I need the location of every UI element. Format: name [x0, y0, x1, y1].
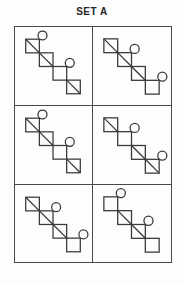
figure-cell-r2c2 — [93, 106, 171, 185]
square-2 — [118, 132, 132, 146]
square-4 — [67, 238, 81, 252]
square-4-diagonal — [145, 159, 159, 173]
chain-figure-r2c1 — [15, 106, 92, 184]
chain-figure-r3c1 — [15, 185, 92, 263]
square-2-diagonal — [39, 53, 53, 67]
square-3-diagonal — [53, 224, 67, 238]
square-4-diagonal — [67, 80, 81, 94]
square-1-diagonal — [26, 197, 40, 211]
attached-circle-square-2 — [130, 123, 139, 132]
attached-circle-square-1 — [116, 189, 125, 198]
square-1-diagonal — [26, 39, 40, 53]
figure-cell-r3c1 — [15, 185, 93, 263]
attached-circle-square-1 — [38, 110, 47, 119]
square-3 — [53, 66, 67, 80]
square-1-diagonal — [26, 118, 40, 132]
square-3-diagonal — [132, 224, 146, 238]
chain-figure-r2c2 — [93, 106, 171, 184]
figure-cell-r1c2 — [93, 27, 171, 106]
attached-circle-square-1 — [38, 31, 47, 40]
figure-cell-r2c1 — [15, 106, 93, 185]
attached-circle-square-3 — [65, 58, 74, 67]
attached-circle-square-4 — [158, 151, 167, 160]
chain-figure-r3c2 — [93, 185, 171, 263]
square-2-diagonal — [39, 132, 53, 146]
square-4 — [145, 80, 159, 94]
square-3-diagonal — [132, 66, 146, 80]
attached-circle-square-4 — [79, 230, 88, 239]
set-title: SET A — [0, 6, 184, 17]
figure-cell-r3c2 — [93, 185, 171, 263]
square-2-diagonal — [39, 211, 53, 225]
attached-circle-square-4 — [158, 72, 167, 81]
square-3-diagonal — [132, 145, 146, 159]
attached-circle-square-2 — [130, 44, 139, 53]
figure-grid — [14, 26, 172, 263]
attached-circle-square-3 — [65, 137, 74, 146]
square-4 — [145, 238, 159, 252]
attached-circle-square-3 — [144, 216, 153, 225]
square-1-diagonal — [104, 118, 118, 132]
chain-figure-r1c2 — [93, 27, 171, 105]
square-3 — [53, 145, 67, 159]
square-4-diagonal — [67, 159, 81, 173]
attached-circle-square-2 — [52, 203, 61, 212]
square-1 — [104, 197, 118, 211]
square-2-diagonal — [118, 211, 132, 225]
square-1-diagonal — [104, 39, 118, 53]
square-2-diagonal — [118, 53, 132, 67]
figure-cell-r1c1 — [15, 27, 93, 106]
chain-figure-r1c1 — [15, 27, 92, 105]
